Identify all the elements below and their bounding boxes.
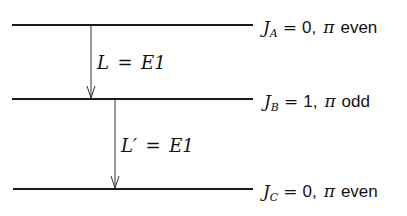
transition-arrow-a-to-b <box>87 26 95 98</box>
decay-scheme-diagram: L = E1 L′ = E1 JA=0,πeven JB=1,πodd JC=0… <box>0 0 407 216</box>
level-label-b: JB=1,πodd <box>261 91 370 114</box>
level-label-c: JC=0,πeven <box>260 181 378 204</box>
transition-label-b-to-c: L′ = E1 <box>120 135 194 156</box>
level-label-a: JA=0,πeven <box>260 17 377 40</box>
transition-label-a-to-b: L = E1 <box>96 52 166 73</box>
transition-arrow-b-to-c <box>111 100 119 188</box>
